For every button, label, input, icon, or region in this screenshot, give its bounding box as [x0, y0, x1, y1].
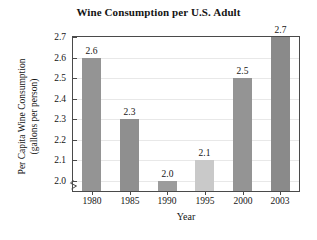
bar[interactable]: 2.0 [158, 181, 177, 191]
gridline [73, 160, 299, 161]
bar[interactable]: 2.1 [195, 160, 214, 191]
bar-value-label: 2.5 [237, 66, 249, 76]
chart-title: Wine Consumption per U.S. Adult [0, 6, 317, 18]
x-axis-tick-label: 1985 [121, 196, 140, 206]
y-axis-tick [73, 99, 77, 100]
chart-figure: Wine Consumption per U.S. Adult Per Capi… [0, 0, 317, 240]
y-axis-tick [73, 78, 77, 79]
y-axis-title-line1: Per Capita Wine Consumption [18, 58, 28, 174]
y-axis-tick-label: 2.2 [54, 135, 66, 145]
x-axis-tick-label: 2003 [271, 196, 290, 206]
axis-break-icon [69, 177, 78, 188]
y-axis-tick [73, 140, 77, 141]
y-axis-tick [73, 37, 77, 38]
x-axis-tick [130, 191, 131, 195]
bar-value-label: 2.7 [275, 25, 287, 35]
bar-value-label: 2.0 [162, 169, 174, 179]
y-axis-tick-label: 2.4 [54, 94, 66, 104]
y-axis-tick-label: 2.6 [54, 53, 66, 63]
y-axis-tick-label: 2.1 [54, 155, 66, 165]
gridline [73, 181, 299, 182]
x-axis-tick [92, 191, 93, 195]
y-axis-title-line2: (gallons per person) [29, 78, 39, 154]
gridline [73, 140, 299, 141]
bar-value-label: 2.3 [124, 107, 136, 117]
bar-value-label: 2.6 [86, 46, 98, 56]
x-axis-tick [243, 191, 244, 195]
plot-area: 2.02.12.22.32.42.52.62.72.619802.319852.… [72, 36, 300, 192]
x-axis-tick-label: 1980 [83, 196, 102, 206]
y-axis-tick [73, 119, 77, 120]
x-axis-tick [205, 191, 206, 195]
x-axis-tick [280, 191, 281, 195]
gridline [73, 99, 299, 100]
y-axis-tick [73, 160, 77, 161]
y-axis-tick-label: 2.0 [54, 176, 66, 186]
y-axis-tick-label: 2.7 [54, 32, 66, 42]
gridline [73, 58, 299, 59]
x-axis-tick [167, 191, 168, 195]
y-axis-title: Per Capita Wine Consumption (gallons per… [14, 26, 44, 206]
gridline [73, 78, 299, 79]
y-axis-tick-label: 2.5 [54, 73, 66, 83]
x-axis-tick-label: 1990 [158, 196, 177, 206]
bar[interactable]: 2.6 [82, 58, 101, 191]
y-axis-tick-label: 2.3 [54, 114, 66, 124]
x-axis-tick-label: 1995 [196, 196, 215, 206]
bar[interactable]: 2.3 [120, 119, 139, 191]
y-axis-tick [73, 58, 77, 59]
bar[interactable]: 2.7 [271, 37, 290, 191]
bar[interactable]: 2.5 [233, 78, 252, 191]
gridline [73, 119, 299, 120]
x-axis-title: Year [72, 211, 300, 222]
bar-value-label: 2.1 [199, 148, 211, 158]
x-axis-tick-label: 2000 [234, 196, 253, 206]
